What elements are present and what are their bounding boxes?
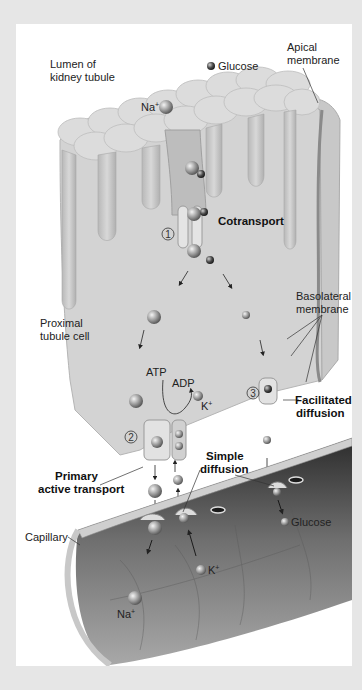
primary-active-transport-label-line2: active transport <box>38 483 124 495</box>
lumen-label-line2: kidney tubule <box>50 71 115 83</box>
facilitated-diffusion-label-line1: Facilitated <box>295 394 352 406</box>
glucose-molecule-cotransporter <box>200 208 208 216</box>
simple-diffusion-label-line1: Simple <box>206 450 244 462</box>
svg-text:1: 1 <box>165 229 171 240</box>
sodium-ion-pump-approach <box>129 394 143 408</box>
cell-label-line1: Proximal <box>40 317 83 329</box>
svg-text:3: 3 <box>250 388 256 399</box>
lumen-label-line1: Lumen of <box>50 58 97 70</box>
sodium-ion-cytoplasm <box>147 310 161 324</box>
glucose-molecule-top <box>207 62 215 70</box>
glucose-transporter <box>259 378 277 404</box>
facilitated-diffusion-label-line2: diffusion <box>296 407 345 419</box>
glucose-label-top: Glucose <box>218 60 258 72</box>
sodium-ion-blood <box>128 591 142 605</box>
cotransport-label: Cotransport <box>218 215 284 227</box>
potassium-ion-blood <box>196 565 206 575</box>
glucose-molecule-capillary-wall <box>273 488 281 496</box>
svg-text:2: 2 <box>128 432 134 443</box>
potassium-ion-capillary-wall <box>179 513 189 523</box>
atp-label: ATP <box>146 366 167 378</box>
glucose-molecule-cytoplasm <box>242 311 250 319</box>
sodium-ion-capillary-wall <box>148 521 162 535</box>
simple-diffusion-label-line2: diffusion <box>200 463 249 475</box>
glucose-molecule-exported <box>263 436 271 444</box>
sodium-ion-top <box>159 100 173 114</box>
sodium-ion-released <box>187 244 201 258</box>
kidney-transport-diagram: 1 2 3 Lumen of kidney tubule Glucose Api… <box>16 24 352 666</box>
sodium-ion-cotransporter <box>187 207 201 221</box>
capillary-label: Capillary <box>25 531 68 543</box>
glucose-molecule-released <box>206 256 214 264</box>
adp-label: ADP <box>172 377 195 389</box>
potassium-ion-imported <box>173 475 183 485</box>
apical-membrane-label-line1: Apical <box>287 41 317 53</box>
basolateral-label-line1: Basolateral <box>296 290 351 302</box>
sodium-ion-exported <box>148 484 162 498</box>
primary-active-transport-label-line1: Primary <box>55 470 98 482</box>
sodium-potassium-pump <box>144 420 186 460</box>
glucose-molecule-blood <box>281 518 289 526</box>
diagram-panel: 1 2 3 Lumen of kidney tubule Glucose Api… <box>16 24 352 666</box>
sodium-ion-channel <box>185 161 199 175</box>
glucose-label-bottom: Glucose <box>291 516 331 528</box>
basolateral-label-line2: membrane <box>296 303 349 315</box>
glucose-molecule-channel <box>197 170 205 178</box>
cell-label-line2: tubule cell <box>40 330 90 342</box>
apical-membrane-label-line2: membrane <box>287 54 340 66</box>
